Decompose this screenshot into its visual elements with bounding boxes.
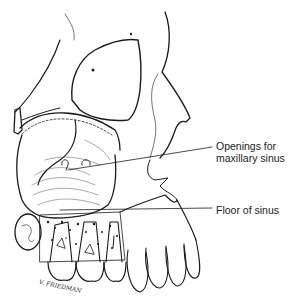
label-openings-line1: Openings for — [216, 140, 285, 152]
anatomical-figure: Openings for maxillary sinus Floor of si… — [0, 0, 301, 304]
label-openings-for-maxillary-sinus: Openings for maxillary sinus — [216, 140, 285, 164]
label-openings-line2: maxillary sinus — [216, 152, 285, 164]
label-floor-of-sinus: Floor of sinus — [216, 204, 279, 216]
